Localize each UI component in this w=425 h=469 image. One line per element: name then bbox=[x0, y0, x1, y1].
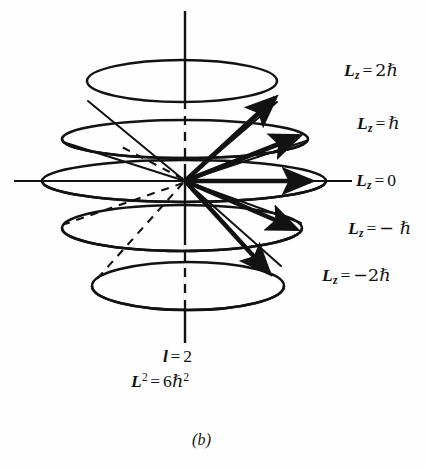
cone-rim-mneg1-front-arc bbox=[62, 228, 302, 251]
lz-symbol: L bbox=[356, 170, 367, 190]
lz-value: − ℏ bbox=[379, 218, 411, 238]
label-lz-minus-2hbar: Lz=−2ℏ bbox=[322, 267, 391, 287]
cone-rim-mneg2-front-arc bbox=[92, 286, 284, 310]
l-squared-exponent: 2 bbox=[142, 371, 148, 383]
label-l-squared-value: L2=6ℏ2 bbox=[131, 372, 189, 390]
l-squared-symbol: L bbox=[131, 371, 142, 391]
momentum-vector-m2 bbox=[185, 98, 275, 181]
lz-symbol: L bbox=[357, 113, 368, 133]
hbar-symbol: ℏ bbox=[172, 371, 183, 391]
equals-sign: = bbox=[338, 265, 353, 285]
lz-value: 0 bbox=[387, 170, 396, 190]
label-quantum-number-l: l=2 bbox=[163, 348, 192, 366]
label-lz-minus-1hbar: Lz=− ℏ bbox=[348, 220, 411, 240]
label-lz-plus-2hbar: Lz=2ℏ bbox=[344, 62, 398, 82]
equals-sign: = bbox=[372, 170, 387, 190]
angular-momentum-figure: Lz=2ℏ Lz=ℏ Lz=0 Lz=− ℏ Lz=−2ℏ l=2 L2=6ℏ2… bbox=[0, 0, 425, 469]
l-squared-coefficient: 6 bbox=[163, 371, 172, 391]
momentum-vector-mneg2 bbox=[185, 181, 269, 273]
lz-value: 2ℏ bbox=[375, 60, 398, 80]
equals-sign: = bbox=[360, 60, 375, 80]
equals-sign: = bbox=[364, 218, 379, 238]
lz-value: ℏ bbox=[388, 113, 399, 133]
equals-sign: = bbox=[373, 113, 388, 133]
equals-sign: = bbox=[148, 371, 163, 391]
equals-sign: = bbox=[168, 346, 183, 366]
lz-symbol: L bbox=[348, 218, 359, 238]
lz-value: −2ℏ bbox=[353, 265, 391, 285]
lz-symbol: L bbox=[344, 60, 355, 80]
l-value: 2 bbox=[183, 346, 192, 366]
cone-rim-m2 bbox=[87, 60, 277, 102]
hbar-exponent: 2 bbox=[183, 371, 189, 383]
panel-label: (b) bbox=[192, 432, 211, 448]
cone-hidden-edge-mneg1-left bbox=[65, 183, 183, 224]
cone-edge-m2-left bbox=[88, 101, 185, 181]
lz-symbol: L bbox=[322, 265, 333, 285]
label-lz-zero: Lz=0 bbox=[356, 172, 396, 192]
label-lz-plus-1hbar: Lz=ℏ bbox=[357, 115, 400, 135]
